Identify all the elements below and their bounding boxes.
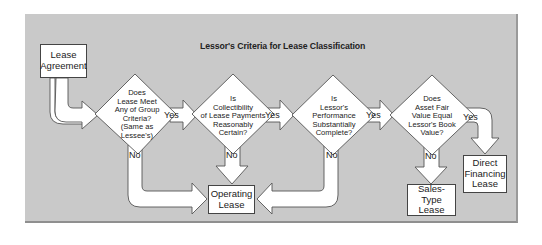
decision-3-line: Complete?: [303, 129, 365, 138]
outcome-direct-financing-lease: Direct Financing Lease: [463, 155, 507, 193]
decision-1-text: Does Lease Meet Any of Group Criteria? (…: [105, 89, 169, 140]
decision-3-yes-label: Yes: [366, 110, 381, 120]
decision-1-no-label: No: [129, 150, 141, 160]
decision-4-line: Value?: [401, 129, 463, 138]
outcome-sales-type-lease: Sales-Type Lease: [407, 184, 456, 216]
start-label-line2: Agreement: [40, 61, 86, 72]
arrow-start-to-d1-main: [55, 78, 98, 129]
outcome-operating-lease: Operating Lease: [208, 185, 255, 214]
decision-1-line: Lessee's): [105, 132, 169, 141]
decision-2-yes-label: Yes: [265, 110, 280, 120]
decision-2-text: Is Collectibility of Lease Payments Reas…: [195, 95, 271, 138]
sales-type-line2: Lease: [408, 205, 455, 216]
direct-financing-line1: Direct: [464, 158, 505, 169]
sales-type-line1: Sales-Type: [408, 184, 455, 206]
decision-1-yes-label: Yes: [164, 110, 179, 120]
decision-2-line: Certain?: [195, 129, 271, 138]
lease-classification-diagram: Lessor's Criteria for Lease Classificati…: [0, 0, 542, 245]
decision-3-no-label: No: [326, 150, 338, 160]
diagram-title: Lessor's Criteria for Lease Classificati…: [200, 40, 439, 51]
decision-2-no-label: No: [226, 150, 238, 160]
decision-4-yes-label: Yes: [463, 112, 478, 122]
decision-3-text: Is Lessor's Performance Substantially Co…: [303, 95, 365, 138]
decision-4-no-label: No: [425, 151, 437, 161]
start-node-lease-agreement: Lease Agreement: [40, 44, 87, 78]
operating-lease-line1: Operating: [211, 189, 253, 200]
direct-financing-line3: Lease: [464, 179, 505, 190]
operating-lease-line2: Lease: [211, 200, 253, 211]
decision-4-text: Does Asset Fair Value Equal Lessor's Boo…: [401, 95, 463, 138]
